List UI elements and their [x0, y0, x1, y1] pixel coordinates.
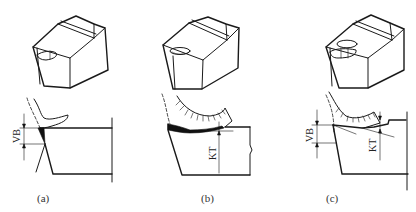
crater-wear-b: [168, 124, 224, 133]
panel-c: VB KT (c): [276, 0, 416, 212]
tool-section-a: VB: [11, 114, 112, 182]
caption-b: (b): [201, 192, 214, 204]
tool-section-c: VB KT: [304, 110, 408, 190]
panel-a: VB (a): [0, 0, 140, 212]
tool-insert-b: [163, 17, 239, 89]
caption-a: (a): [37, 192, 49, 204]
kt-label-b: KT: [207, 147, 218, 160]
tool-insert-c: [326, 15, 404, 88]
tool-insert-a: [33, 16, 108, 88]
flank-wear-land-a: [38, 128, 45, 144]
chip-b: [162, 94, 232, 127]
panel-a-drawing: VB: [0, 0, 140, 212]
chip-a: [27, 98, 68, 128]
panel-b: KT (b): [140, 0, 280, 212]
vb-label-a: VB: [11, 129, 22, 143]
kt-label-c: KT: [367, 139, 378, 152]
panel-b-drawing: KT: [140, 0, 280, 212]
vb-label-c: VB: [304, 128, 315, 142]
tool-section-b: KT: [168, 122, 252, 175]
caption-c: (c): [326, 192, 338, 204]
chip-c: [326, 92, 380, 132]
panel-c-drawing: VB KT: [276, 0, 416, 212]
